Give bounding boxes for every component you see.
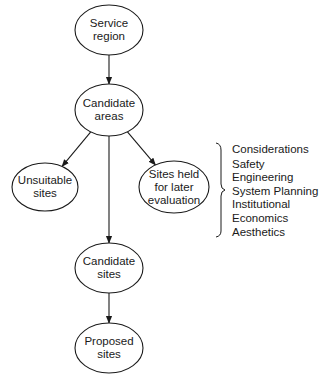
consideration-item: Engineering xyxy=(232,171,318,185)
consideration-item: Economics xyxy=(232,212,318,226)
arrow-candidate-areas-to-unsuitable-sites xyxy=(62,132,91,167)
node-label-line: sites xyxy=(83,268,135,281)
node-label-unsuitable-sites: Unsuitablesites xyxy=(18,174,72,200)
node-label-line: for later xyxy=(148,181,200,194)
node-label-candidate-areas: Candidateareas xyxy=(83,97,135,123)
node-label-line: sites xyxy=(18,187,72,200)
node-label-line: areas xyxy=(83,110,135,123)
node-label-line: evaluation xyxy=(148,194,200,207)
arrow-candidate-areas-to-sites-held xyxy=(127,132,155,165)
consideration-item: Safety xyxy=(232,158,318,172)
node-label-candidate-sites: Candidatesites xyxy=(83,255,135,281)
node-label-line: Unsuitable xyxy=(18,174,72,187)
consideration-item: Aesthetics xyxy=(232,226,318,240)
considerations-title: Considerations xyxy=(232,143,318,157)
node-label-line: Proposed xyxy=(84,335,133,348)
node-label-line: Service xyxy=(90,17,128,30)
node-label-line: Candidate xyxy=(83,255,135,268)
node-label-service-region: Serviceregion xyxy=(90,17,128,43)
considerations-list: Considerations Safety Engineering System… xyxy=(232,143,318,239)
node-label-proposed-sites: Proposedsites xyxy=(84,335,133,361)
node-label-line: sites xyxy=(84,348,133,361)
node-label-line: Sites held xyxy=(148,168,200,181)
considerations-brace xyxy=(216,143,225,237)
consideration-item: System Planning xyxy=(232,185,318,199)
node-label-line: region xyxy=(90,30,128,43)
node-label-line: Candidate xyxy=(83,97,135,110)
consideration-item: Institutional xyxy=(232,198,318,212)
node-label-sites-held: Sites heldfor laterevaluation xyxy=(148,168,200,207)
